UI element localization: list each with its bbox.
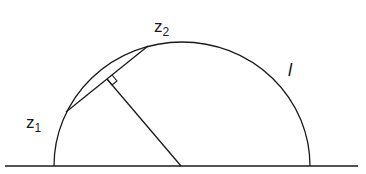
label-geodesic-l: l [288, 60, 293, 80]
perpendicular-bisector [107, 79, 181, 166]
label-z2: z2 [154, 17, 170, 39]
geodesic-semicircle [54, 42, 310, 166]
right-angle-marker [107, 75, 117, 85]
label-z1: z1 [26, 113, 42, 135]
diagram-canvas: z2 z1 l [0, 0, 366, 174]
